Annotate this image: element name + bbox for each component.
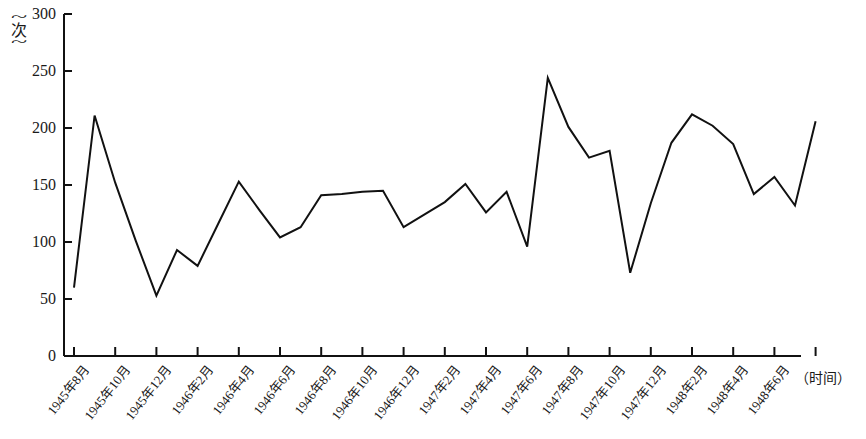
data-series-line (74, 78, 816, 296)
x-tick-marks (74, 347, 816, 356)
axes (64, 14, 801, 356)
y-tick-marks (64, 14, 72, 356)
line-chart: ~ 次 ~ （时间） 050100150200250300 1945年8月194… (0, 0, 866, 439)
plot-area (0, 0, 866, 439)
